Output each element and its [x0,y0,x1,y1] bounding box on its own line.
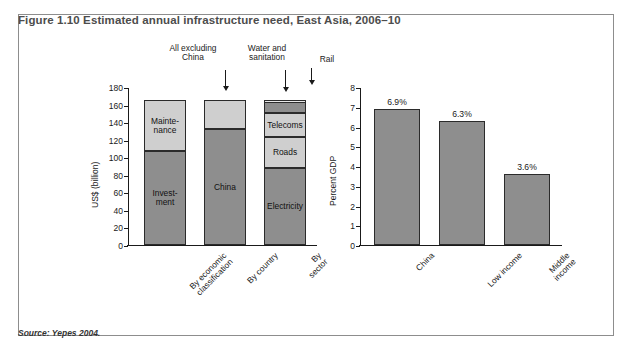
left-chart-tick [124,228,128,229]
bar-segment[interactable]: Roads [264,137,306,168]
bar-segment-label: Electricity [267,202,303,211]
left-chart-tick-label: 120 [109,136,123,145]
left-chart-tick-label: 20 [114,224,123,233]
right-chart-tick-label: 2 [350,202,355,211]
bar-segment[interactable]: Telecoms [264,113,306,137]
bar-segment[interactable] [264,100,306,103]
bar-segment[interactable]: Invest- ment [144,151,186,245]
figure-title: Figure 1.10 Estimated annual infrastruct… [18,14,401,26]
left-chart-tick [124,106,128,107]
right-chart-tick-label: 4 [350,163,355,172]
annotation-arrow-icon [309,80,315,85]
bar-segment-label: Invest- ment [152,189,177,207]
left-chart-tick [124,123,128,124]
annotation-leader-line [225,70,226,86]
right-chart-tick [356,226,360,227]
annotation-label: Rail [296,55,358,64]
left-chart-tick-label: 180 [109,84,123,93]
right-chart-tick [356,108,360,109]
left-stacked-bar-chart: US$ (billion) 020406080100120140160180 I… [128,88,314,245]
right-chart-y-axis [360,88,361,246]
bar[interactable] [504,174,550,245]
right-chart-tick-label: 5 [350,143,355,152]
annotation-leader-line [285,70,286,87]
right-chart-y-axis-title: Percent GDP [328,156,338,206]
left-chart-tick-label: 160 [109,101,123,110]
left-chart-tick [124,158,128,159]
annotation-leader-line [311,68,312,80]
stacked-bar[interactable]: Invest- mentMainte- nance [144,87,186,245]
right-chart-tick [356,187,360,188]
bar-segment[interactable] [264,102,306,113]
left-chart-tick-label: 80 [114,172,123,181]
bar-value-label: 6.3% [452,109,472,119]
annotation-label: All excluding China [162,44,224,63]
bar[interactable] [374,109,420,245]
bar-segment[interactable]: Mainte- nance [144,100,186,151]
left-chart-tick [124,176,128,177]
bar-value-label: 6.9% [387,97,407,107]
right-chart-tick-label: 6 [350,123,355,132]
stacked-bar[interactable]: ElectricityRoadsTelecoms [264,87,306,245]
right-bar-chart: Percent GDP 012345678 6.9%6.3%3.6% China… [360,88,560,245]
left-chart-tick [124,141,128,142]
right-chart-tick-label: 8 [350,84,355,93]
right-chart-tick-label: 7 [350,104,355,113]
left-chart-tick [124,211,128,212]
bar-segment-label: China [214,183,236,192]
left-chart-y-axis [128,88,129,246]
right-chart-tick [356,246,360,247]
left-chart-y-axis-title: US$ (billion) [90,162,100,208]
bar-segment[interactable] [204,100,246,129]
left-chart-tick [124,88,128,89]
right-chart-tick-label: 0 [350,242,355,251]
left-chart-tick [124,246,128,247]
source-note: Source: Yepes 2004. [18,328,100,338]
bar-segment[interactable]: China [204,129,246,245]
right-chart-tick [356,128,360,129]
bar-segment-label: Telecoms [267,121,302,130]
left-chart-tick [124,193,128,194]
right-chart-tick [356,88,360,89]
bar-segment-label: Mainte- nance [151,117,179,135]
annotation-arrow-icon [223,86,229,91]
bar-value-label: 3.6% [517,162,537,172]
bar[interactable] [439,121,485,245]
right-chart-tick-label: 3 [350,183,355,192]
annotation-arrow-icon [283,87,289,92]
bar-segment-label: Roads [273,148,297,157]
annotation-label: Water and sanitation [236,44,298,63]
left-chart-tick-label: 100 [109,154,123,163]
left-chart-tick-label: 140 [109,119,123,128]
left-chart-tick-label: 40 [114,207,123,216]
right-chart-tick [356,147,360,148]
right-chart-tick [356,167,360,168]
right-chart-tick [356,207,360,208]
right-chart-tick-label: 1 [350,222,355,231]
left-chart-tick-label: 60 [114,189,123,198]
bar-segment[interactable]: Electricity [264,168,306,245]
stacked-bar[interactable]: China [204,87,246,245]
left-chart-tick-label: 0 [118,242,123,251]
